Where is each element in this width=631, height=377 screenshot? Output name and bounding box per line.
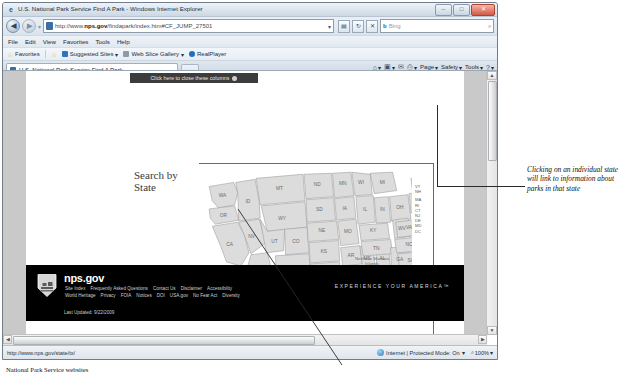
scroll-down-arrow[interactable]: ▼ (487, 326, 497, 335)
minimize-button[interactable]: – (435, 4, 452, 16)
add-favorite-icon[interactable]: ☆ (51, 51, 57, 58)
svg-text:CA: CA (226, 242, 233, 247)
window-controls: – □ ✕ (435, 4, 495, 16)
security-zone-indicator[interactable]: Internet | Protected Mode: On ▾ (377, 349, 465, 356)
svg-text:NE: NE (318, 228, 325, 233)
footer-link-contact-us[interactable]: Contact Us (153, 286, 176, 291)
menu-bar: File Edit View Favorites Tools Help (3, 35, 497, 47)
scroll-right-arrow[interactable]: ▶ (478, 335, 487, 344)
state-label-dc[interactable]: DC (415, 229, 429, 234)
vertical-scrollbar[interactable]: ▲ ▼ (486, 71, 497, 335)
favorites-item-web-slice-gallery[interactable]: Web Slice Gallery ▾ (123, 51, 184, 58)
svg-text:MN: MN (339, 181, 347, 186)
footer-link-no-fear-act[interactable]: No Fear Act (193, 293, 217, 298)
east-state-label-list[interactable]: VT NH MA RI CT NJ DE MD DC (415, 184, 429, 234)
footer-links-row-1: Site Index Frequently Asked Questions Co… (65, 286, 232, 291)
footer-link-usa-gov[interactable]: USA.gov (170, 293, 188, 298)
menu-item-favorites[interactable]: Favorites (63, 38, 88, 45)
chevron-down-icon[interactable]: ▾ (115, 51, 118, 58)
stop-icon[interactable]: ✕ (366, 20, 378, 33)
favorites-divider (45, 50, 46, 58)
menu-item-tools[interactable]: Tools (95, 38, 109, 45)
close-button[interactable]: ✕ (471, 4, 495, 16)
favorites-item-suggested-sites[interactable]: Suggested Sites ▾ (62, 51, 119, 58)
annotation-right-note: Clicking on an individual state will lin… (527, 165, 631, 193)
svg-text:MO: MO (344, 229, 352, 234)
scroll-left-arrow[interactable]: ◀ (3, 335, 12, 344)
favorites-item-realplayer[interactable]: RealPlayer (189, 51, 226, 57)
footer-tagline: EXPERIENCE YOUR AMERICA™ (335, 283, 450, 289)
footer-link-accessibility[interactable]: Accessibility (207, 286, 232, 291)
recent-pages-caret[interactable]: ▾ (38, 23, 41, 30)
web-page-content: Click here to close these columns Search… (3, 71, 487, 335)
back-button[interactable]: ◀ (6, 19, 20, 33)
favorites-button[interactable]: ☆ Favorites (7, 51, 40, 58)
footer-link-privacy[interactable]: Privacy (101, 293, 116, 298)
status-bar: http://www.nps.gov/state/tx/ Internet | … (3, 345, 497, 359)
favorites-label: Favorites (15, 51, 40, 57)
search-input[interactable]: b Bing ⌕ (380, 19, 494, 33)
zoom-control[interactable]: ⌕ 100% ▾ (471, 349, 493, 356)
address-action-icons: ▤ ↻ ✕ (338, 20, 378, 33)
menu-item-view[interactable]: View (43, 38, 56, 45)
svg-text:WV: WV (398, 226, 407, 231)
address-dropdown-caret[interactable]: ▾ (328, 23, 331, 30)
svg-text:OR: OR (220, 213, 228, 218)
svg-text:MT: MT (276, 186, 283, 191)
footer-link-disclaimer[interactable]: Disclaimer (181, 286, 202, 291)
address-bar-row: ◀ ▶ ▾ http://www.nps.gov/findapark/index… (3, 17, 497, 35)
page-title-line2: State (134, 181, 178, 193)
footer-site-name[interactable]: nps.gov (64, 272, 104, 284)
maximize-button[interactable]: □ (453, 4, 470, 16)
compatibility-view-icon[interactable]: ▤ (338, 20, 350, 33)
horizontal-scrollbar[interactable]: ◀ ▶ (3, 334, 487, 345)
chevron-down-icon[interactable]: ▾ (181, 51, 184, 58)
footer-link-world-heritage[interactable]: World Heritage (65, 293, 96, 298)
svg-text:ID: ID (246, 199, 251, 204)
close-columns-banner[interactable]: Click here to close these columns (130, 73, 258, 83)
menu-item-file[interactable]: File (8, 38, 18, 45)
footer-link-diversity[interactable]: Diversity (222, 293, 240, 298)
annotation-leader-line-right (437, 186, 525, 187)
bing-icon: b (383, 23, 387, 29)
status-link-url: http://www.nps.gov/state/tx/ (7, 350, 377, 356)
scroll-up-arrow[interactable]: ▲ (487, 71, 497, 80)
footer-links-row-2: World Heritage Privacy FOIA Notices DOI … (65, 293, 240, 298)
horizontal-scroll-thumb[interactable] (13, 336, 315, 345)
svg-text:SD: SD (316, 207, 323, 212)
page-left-gutter (3, 71, 26, 335)
page-right-gutter (464, 71, 487, 335)
forward-button[interactable]: ▶ (22, 19, 36, 33)
search-icon[interactable]: ⌕ (488, 23, 491, 30)
vertical-scroll-thumb[interactable] (488, 81, 497, 161)
menu-item-help[interactable]: Help (117, 38, 130, 45)
title-bar: e U.S. National Park Service Find A Park… (3, 3, 497, 17)
annotation-leader-vertical-right (437, 105, 438, 187)
footer-link-notices[interactable]: Notices (136, 293, 151, 298)
footer-link-foia[interactable]: FOIA (121, 293, 132, 298)
svg-text:SC: SC (408, 258, 412, 263)
svg-text:WY: WY (278, 216, 287, 221)
zoom-level-label: 100% (475, 350, 489, 356)
footer-link-doi[interactable]: DOI (157, 293, 165, 298)
footer-last-updated: Last Updated: 9/22/2009 (64, 310, 114, 315)
internet-zone-icon (377, 349, 384, 356)
browser-window: e U.S. National Park Service Find A Park… (2, 2, 498, 360)
footer-link-site-index[interactable]: Site Index (65, 286, 85, 291)
state-label-nh[interactable]: NH (415, 189, 429, 194)
svg-text:TN: TN (373, 246, 380, 251)
svg-text:IL: IL (363, 207, 367, 212)
svg-text:UT: UT (271, 239, 277, 244)
menu-item-edit[interactable]: Edit (25, 38, 36, 45)
close-icon[interactable] (232, 76, 237, 81)
site-footer: nps.gov Site Index Frequently Asked Ques… (26, 265, 464, 321)
svg-text:NV: NV (248, 234, 255, 239)
chevron-down-icon[interactable]: ▾ (490, 350, 493, 356)
svg-text:NC: NC (405, 242, 412, 247)
close-columns-label: Click here to close these columns (151, 75, 230, 81)
address-input[interactable]: http://www.nps.gov/findapark/index.htm#C… (43, 19, 334, 33)
refresh-icon[interactable]: ↻ (352, 20, 364, 33)
footer-link-faq[interactable]: Frequently Asked Questions (90, 286, 147, 291)
page-title-line1: Search by (134, 169, 178, 181)
chevron-down-icon[interactable]: ▾ (462, 350, 465, 356)
